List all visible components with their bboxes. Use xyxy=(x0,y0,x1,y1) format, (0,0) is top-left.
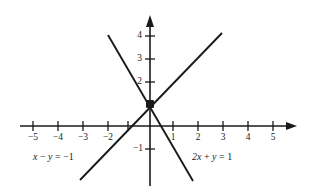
eq-right-operator: + xyxy=(201,151,212,162)
plot-canvas xyxy=(0,0,309,193)
x-axis-arrowhead xyxy=(286,122,297,130)
equation-label-right: 2x + y = 1 xyxy=(192,152,232,162)
intersection-point-marker xyxy=(146,100,154,108)
coordinate-plane-figure: −5 −4 −3 −2 1 2 3 4 5 4 3 2 −1 x − y = −… xyxy=(0,0,309,193)
y-tick-label-pos3: 3 xyxy=(130,54,142,64)
equation-label-left: x − y = −1 xyxy=(33,152,74,162)
x-tick-label-neg2: −2 xyxy=(100,133,116,143)
y-tick-label-pos2: 2 xyxy=(130,77,142,87)
x-tick-label-pos1: 1 xyxy=(166,133,180,143)
eq-right-rhs: 1 xyxy=(227,151,232,162)
eq-right-equals: = xyxy=(217,151,228,162)
x-tick-label-neg4: −4 xyxy=(50,133,66,143)
y-tick-label-pos4: 4 xyxy=(130,31,142,41)
x-tick-label-pos3: 3 xyxy=(216,133,230,143)
eq-left-operator: − xyxy=(37,151,48,162)
eq-left-equals: = xyxy=(53,151,64,162)
x-tick-label-neg3: −3 xyxy=(75,133,91,143)
x-tick-label-pos5: 5 xyxy=(266,133,280,143)
x-tick-label-pos4: 4 xyxy=(241,133,255,143)
x-tick-label-neg5: −5 xyxy=(25,133,41,143)
y-axis-arrowhead xyxy=(146,15,154,27)
y-tick-label-neg1: −1 xyxy=(126,144,143,154)
eq-left-rhs: −1 xyxy=(63,151,74,162)
x-tick-label-pos2: 2 xyxy=(191,133,205,143)
